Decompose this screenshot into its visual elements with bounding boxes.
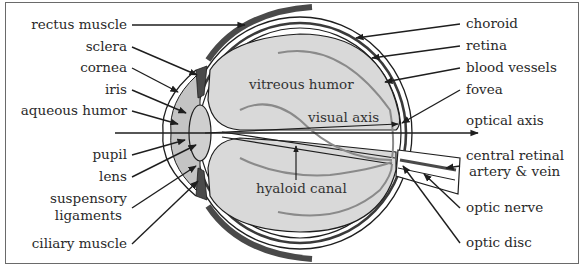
eye-diagram: rectus muscle sclera cornea iris aqueous… bbox=[0, 0, 583, 272]
leader-sclera bbox=[132, 47, 197, 75]
leader-choroid bbox=[356, 24, 460, 38]
label-rectus-muscle: rectus muscle bbox=[31, 16, 127, 32]
leader-fovea bbox=[402, 90, 460, 123]
label-vitreous-humor: vitreous humor bbox=[248, 76, 354, 92]
leader-retina bbox=[372, 46, 460, 58]
label-pupil: pupil bbox=[92, 146, 127, 162]
label-aqueous-humor: aqueous humor bbox=[21, 102, 128, 118]
leader-ciliary-muscle bbox=[132, 181, 198, 244]
label-suspensory-ligaments-2: ligaments bbox=[55, 207, 122, 223]
label-ciliary-muscle: ciliary muscle bbox=[32, 235, 127, 251]
label-visual-axis: visual axis bbox=[307, 109, 379, 125]
label-retina: retina bbox=[466, 37, 507, 53]
label-lens: lens bbox=[99, 168, 127, 184]
label-sclera: sclera bbox=[86, 38, 127, 54]
leader-cornea bbox=[132, 68, 178, 92]
label-blood-vessels: blood vessels bbox=[466, 59, 557, 75]
label-choroid: choroid bbox=[466, 15, 518, 31]
label-hyaloid-canal: hyaloid canal bbox=[256, 180, 347, 196]
optic-nerve bbox=[396, 150, 460, 194]
label-optic-nerve: optic nerve bbox=[466, 199, 543, 215]
label-iris: iris bbox=[105, 81, 127, 97]
label-fovea: fovea bbox=[466, 81, 503, 97]
label-central-retinal-2: artery & vein bbox=[469, 163, 561, 179]
label-suspensory-ligaments-1: suspensory bbox=[50, 190, 127, 206]
label-optical-axis: optical axis bbox=[466, 112, 544, 128]
label-cornea: cornea bbox=[80, 59, 127, 75]
label-optic-disc: optic disc bbox=[466, 234, 532, 250]
label-central-retinal-1: central retinal bbox=[466, 147, 564, 163]
